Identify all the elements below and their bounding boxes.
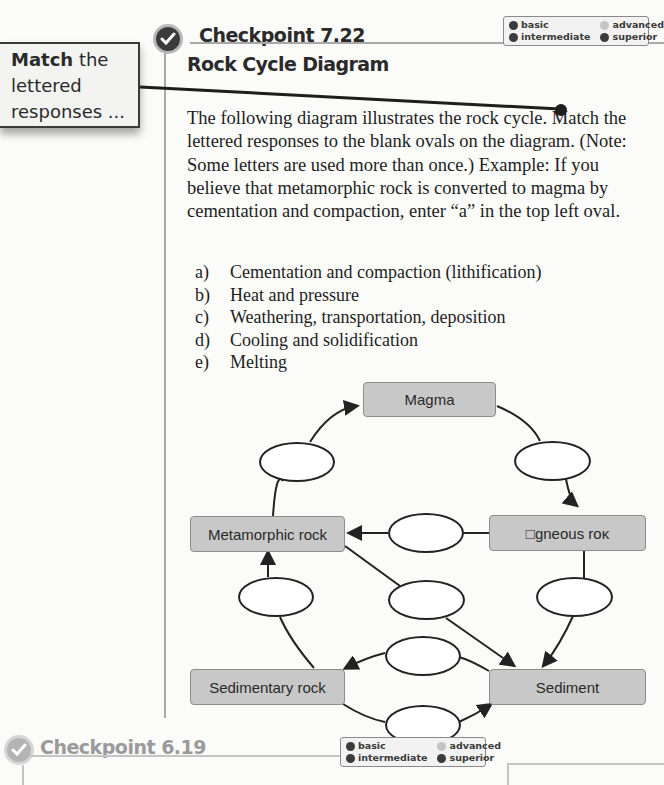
- choice-item: e)Melting: [195, 351, 541, 374]
- next-difficulty-legend: basic advanced intermediate superior: [340, 737, 486, 767]
- superior-check-icon: [600, 33, 609, 42]
- margin-rule: [164, 40, 166, 718]
- answer-oval-sedimentary-to-metamorphic[interactable]: [238, 577, 314, 617]
- legend-basic: basic: [509, 19, 590, 31]
- legend-basic: basic: [346, 740, 427, 752]
- next-header-rule-right: [508, 763, 664, 765]
- checkmark-circle-icon: [153, 24, 183, 54]
- node-metamorphic-rock: Metamorphic rock: [190, 516, 345, 552]
- superior-check-icon: [437, 754, 446, 763]
- legend-advanced: advanced: [600, 19, 663, 31]
- instructions-paragraph: The following diagram illustrates the ro…: [187, 107, 657, 223]
- advanced-check-icon: [600, 21, 609, 30]
- answer-oval-igneous-to-sediment[interactable]: [536, 577, 613, 617]
- legend-advanced: advanced: [437, 740, 500, 752]
- advanced-check-icon: [437, 742, 446, 751]
- intermediate-check-icon: [346, 754, 355, 763]
- legend-intermediate: intermediate: [346, 752, 427, 764]
- difficulty-legend: basic advanced intermediate superior: [503, 16, 649, 46]
- choice-list: a)Cementation and compaction (lithificat…: [195, 261, 541, 374]
- choice-item: c)Weathering, transportation, deposition: [195, 306, 541, 329]
- answer-oval-metamorphic-to-sediment[interactable]: [388, 580, 465, 620]
- answer-oval-sediment-to-sedimentary[interactable]: [385, 636, 461, 676]
- answer-oval-igneous-to-metamorphic[interactable]: [388, 513, 464, 553]
- callout-bold: Match: [11, 49, 73, 70]
- basic-check-icon: [509, 21, 518, 30]
- choice-item: d)Cooling and solidification: [195, 329, 541, 352]
- answer-oval-metamorphic-to-magma[interactable]: [259, 442, 335, 482]
- answer-oval-magma-to-igneous[interactable]: [514, 441, 591, 481]
- legend-superior: superior: [437, 752, 500, 764]
- legend-superior: superior: [600, 31, 663, 43]
- choice-item: b)Heat and pressure: [195, 284, 541, 307]
- next-margin-rule: [22, 765, 24, 785]
- next-box-edge: [507, 763, 509, 785]
- node-igneous-rock: □gneous roĸ: [489, 515, 646, 551]
- node-sedimentary-rock: Sedimentary rock: [190, 669, 345, 705]
- legend-intermediate: intermediate: [509, 31, 590, 43]
- next-header-rule: [30, 755, 340, 757]
- section-subtitle: Rock Cycle Diagram: [187, 53, 389, 75]
- intermediate-check-icon: [509, 33, 518, 42]
- callout-box: Match the lettered responses ...: [0, 42, 140, 128]
- node-sediment: Sediment: [489, 669, 646, 705]
- checkmark-circle-icon: [4, 735, 34, 765]
- node-magma: Magma: [363, 382, 496, 417]
- basic-check-icon: [346, 742, 355, 751]
- choice-item: a)Cementation and compaction (lithificat…: [195, 261, 541, 284]
